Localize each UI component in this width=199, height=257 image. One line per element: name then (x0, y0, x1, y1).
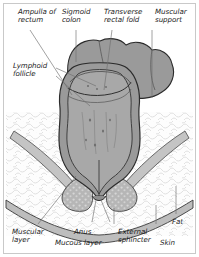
label-ampulla-of-rectum: Ampulla of rectum (18, 8, 56, 24)
label-external-sphincter: External sphincter (118, 228, 151, 244)
label-mucous-layer: Mucous layer (55, 239, 102, 247)
label-fat: Fat (172, 218, 183, 226)
label-transverse-rectal-fold: Transverse rectal fold (104, 8, 142, 24)
label-anus: Anus (74, 228, 91, 236)
anatomical-figure: Ampulla of rectumSigmoid colonTransverse… (0, 0, 199, 257)
label-muscular-layer: Muscular layer (12, 228, 44, 244)
label-lymphoid-follicle: Lymphoid follicle (13, 62, 47, 78)
label-muscular-support: Muscular support (155, 8, 187, 24)
label-skin: Skin (160, 239, 175, 247)
anatomy-illustration (0, 0, 199, 257)
label-sigmoid-colon: Sigmoid colon (62, 8, 90, 24)
